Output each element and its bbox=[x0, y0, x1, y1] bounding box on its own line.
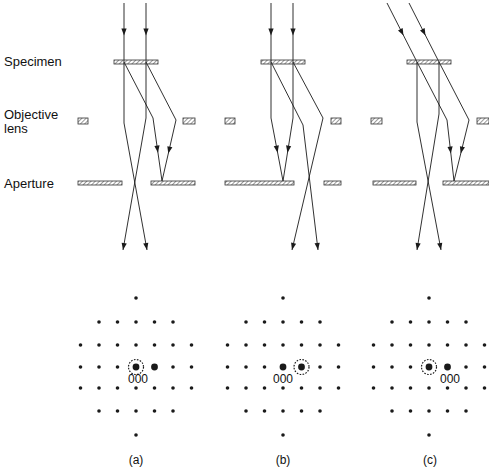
aperture-label: Aperture bbox=[4, 177, 54, 191]
diffraction-spot bbox=[116, 320, 120, 324]
direct-ray bbox=[439, 62, 469, 181]
bright-spot bbox=[280, 364, 287, 371]
diffraction-spot bbox=[190, 386, 194, 390]
diffraction-spot bbox=[153, 343, 157, 347]
diffraction-spot bbox=[244, 365, 248, 369]
diffraction-spot bbox=[244, 320, 248, 324]
caption-a: (a) bbox=[129, 453, 144, 467]
diffraction-spot bbox=[116, 409, 120, 413]
diffraction-spot bbox=[171, 386, 175, 390]
diffraction-spot bbox=[263, 365, 267, 369]
arrowhead-icon bbox=[290, 28, 295, 35]
direct-ray bbox=[123, 62, 146, 250]
arrowhead-icon bbox=[420, 28, 425, 35]
diffraction-spot bbox=[281, 320, 285, 324]
diffraction-spot bbox=[171, 343, 175, 347]
diffraction-spot bbox=[390, 386, 394, 390]
diffraction-spot bbox=[263, 409, 267, 413]
bright-spot bbox=[133, 364, 140, 371]
caption-c: (c) bbox=[423, 453, 437, 467]
diffraction-spot bbox=[263, 320, 267, 324]
specimen-bar bbox=[261, 60, 305, 64]
diffraction-spot bbox=[263, 343, 267, 347]
diffraction-spot bbox=[153, 409, 157, 413]
arrowhead-icon bbox=[274, 145, 279, 152]
diffraction-spot bbox=[97, 409, 101, 413]
diffraction-spot bbox=[97, 343, 101, 347]
objective-lens-right bbox=[477, 118, 489, 124]
specimen-label: Specimen bbox=[4, 55, 62, 69]
objective-lens-label-line1: Objective bbox=[4, 108, 58, 122]
diffraction-spot bbox=[390, 409, 394, 413]
diffraction-spot bbox=[79, 386, 83, 390]
diffraction-spot bbox=[226, 343, 230, 347]
objective-lens-right bbox=[183, 118, 195, 124]
ray-paths bbox=[121, 3, 469, 250]
diffraction-spot bbox=[300, 320, 304, 324]
diffraction-spot bbox=[337, 343, 341, 347]
diffraction-spot bbox=[281, 433, 285, 437]
diffraction-spot bbox=[483, 365, 487, 369]
direct-ray bbox=[271, 62, 283, 181]
arrowhead-icon bbox=[437, 243, 442, 250]
diffraction-spot bbox=[427, 296, 431, 300]
diffraction-spot bbox=[190, 365, 194, 369]
diffraction-spot bbox=[446, 409, 450, 413]
specimen-bar bbox=[407, 60, 451, 64]
arrowhead-icon bbox=[143, 28, 148, 35]
diffraction-spot bbox=[372, 343, 376, 347]
diffracted-ray bbox=[124, 62, 162, 181]
arrowhead-icon bbox=[122, 243, 127, 250]
bright-spot bbox=[444, 364, 451, 371]
diffraction-spot bbox=[318, 365, 322, 369]
diffraction-spot bbox=[281, 386, 285, 390]
diffraction-spot bbox=[300, 386, 304, 390]
diffraction-spot bbox=[300, 343, 304, 347]
diffraction-spot bbox=[97, 386, 101, 390]
diffraction-patterns bbox=[79, 296, 487, 437]
diffraction-spot bbox=[171, 365, 175, 369]
diffraction-spot bbox=[409, 320, 413, 324]
diffraction-spot bbox=[79, 365, 83, 369]
diffraction-spot bbox=[427, 320, 431, 324]
bright-spot bbox=[151, 364, 158, 371]
diffraction-spot bbox=[446, 320, 450, 324]
diffraction-spot bbox=[446, 343, 450, 347]
diffraction-spot bbox=[153, 320, 157, 324]
diffraction-spot bbox=[446, 386, 450, 390]
aperture-left bbox=[373, 181, 416, 185]
arrowhead-icon bbox=[460, 146, 465, 153]
diffraction-spot bbox=[244, 409, 248, 413]
diffraction-spot bbox=[464, 409, 468, 413]
diffraction-spot bbox=[153, 386, 157, 390]
arrowhead-icon bbox=[121, 28, 126, 35]
specimen-bar bbox=[114, 60, 158, 64]
diffraction-spot bbox=[318, 320, 322, 324]
aperture-right bbox=[151, 181, 195, 185]
objective-lens-label-line2: lens bbox=[4, 122, 28, 136]
diffraction-spot bbox=[97, 365, 101, 369]
diffraction-spot bbox=[134, 320, 138, 324]
objective-lens-left bbox=[371, 118, 382, 124]
index-label-a: 000 bbox=[128, 372, 148, 386]
arrowhead-icon bbox=[315, 243, 320, 250]
diffraction-spot bbox=[464, 343, 468, 347]
aperture-left bbox=[78, 181, 122, 185]
arrowhead-icon bbox=[268, 28, 273, 35]
diffraction-spot bbox=[134, 433, 138, 437]
diffraction-spot bbox=[483, 343, 487, 347]
diffraction-spot bbox=[79, 343, 83, 347]
diffraction-spot bbox=[409, 386, 413, 390]
diffraction-spot bbox=[134, 343, 138, 347]
diffraction-spot bbox=[427, 386, 431, 390]
arrowhead-icon bbox=[143, 243, 148, 250]
arrowhead-icon bbox=[167, 146, 172, 153]
diffraction-spot bbox=[226, 386, 230, 390]
diffraction-spot bbox=[427, 343, 431, 347]
objective-lens-left bbox=[225, 118, 235, 124]
aperture-right bbox=[324, 181, 341, 185]
diffraction-spot bbox=[390, 343, 394, 347]
diffracted-ray bbox=[292, 62, 323, 250]
objective-lens-right bbox=[331, 118, 341, 124]
diffraction-spot bbox=[226, 365, 230, 369]
